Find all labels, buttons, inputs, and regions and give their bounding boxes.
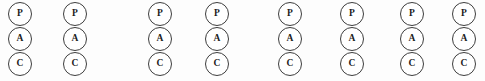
pac-node-label: C (286, 59, 293, 69)
pac-node-label: P (157, 9, 163, 18)
pac-column-3: PAC (148, 0, 174, 81)
pac-node-label: P (461, 9, 467, 18)
pac-diagram-canvas: PACPACPACPACPACPACPACPAC (0, 0, 485, 81)
pac-node-label: A (460, 34, 467, 44)
pac-node-a-col5[interactable]: A (278, 27, 302, 51)
pac-node-a-col3[interactable]: A (148, 27, 172, 51)
pac-node-label: A (348, 34, 355, 44)
pac-node-a-col6[interactable]: A (340, 27, 364, 51)
pac-node-a-col7[interactable]: A (400, 27, 424, 51)
pac-node-label: P (349, 9, 355, 18)
pac-column-5: PAC (278, 0, 304, 81)
pac-node-a-col1[interactable]: A (8, 27, 32, 51)
pac-node-label: P (17, 9, 23, 18)
pac-node-p-col7[interactable]: P (400, 2, 424, 26)
pac-node-c-col5[interactable]: C (278, 52, 302, 76)
pac-node-label: A (71, 34, 78, 44)
pac-node-label: P (72, 9, 78, 18)
pac-node-label: C (156, 59, 163, 69)
pac-node-label: A (286, 34, 293, 44)
pac-node-label: P (409, 9, 415, 18)
pac-node-c-col4[interactable]: C (205, 52, 229, 76)
pac-node-a-col8[interactable]: A (452, 27, 476, 51)
pac-node-label: A (16, 34, 23, 44)
pac-column-8: PAC (452, 0, 478, 81)
pac-node-label: P (287, 9, 293, 18)
pac-node-c-col1[interactable]: C (8, 52, 32, 76)
pac-column-1: PAC (8, 0, 34, 81)
pac-node-p-col5[interactable]: P (278, 2, 302, 26)
pac-node-label: C (16, 59, 23, 69)
pac-node-label: C (408, 59, 415, 69)
pac-column-7: PAC (400, 0, 426, 81)
pac-node-label: C (71, 59, 78, 69)
pac-node-c-col2[interactable]: C (63, 52, 87, 76)
pac-node-label: A (156, 34, 163, 44)
pac-node-label: C (348, 59, 355, 69)
pac-node-c-col8[interactable]: C (452, 52, 476, 76)
pac-node-c-col7[interactable]: C (400, 52, 424, 76)
pac-node-label: A (213, 34, 220, 44)
pac-node-label: A (408, 34, 415, 44)
pac-node-p-col2[interactable]: P (63, 2, 87, 26)
pac-node-p-col3[interactable]: P (148, 2, 172, 26)
pac-column-6: PAC (340, 0, 366, 81)
pac-node-p-col6[interactable]: P (340, 2, 364, 26)
pac-node-label: C (460, 59, 467, 69)
pac-node-c-col3[interactable]: C (148, 52, 172, 76)
pac-column-2: PAC (63, 0, 89, 81)
pac-node-label: P (214, 9, 220, 18)
pac-column-4: PAC (205, 0, 231, 81)
pac-node-a-col2[interactable]: A (63, 27, 87, 51)
pac-node-p-col8[interactable]: P (452, 2, 476, 26)
pac-node-c-col6[interactable]: C (340, 52, 364, 76)
pac-node-label: C (213, 59, 220, 69)
pac-node-a-col4[interactable]: A (205, 27, 229, 51)
pac-node-p-col4[interactable]: P (205, 2, 229, 26)
pac-node-p-col1[interactable]: P (8, 2, 32, 26)
